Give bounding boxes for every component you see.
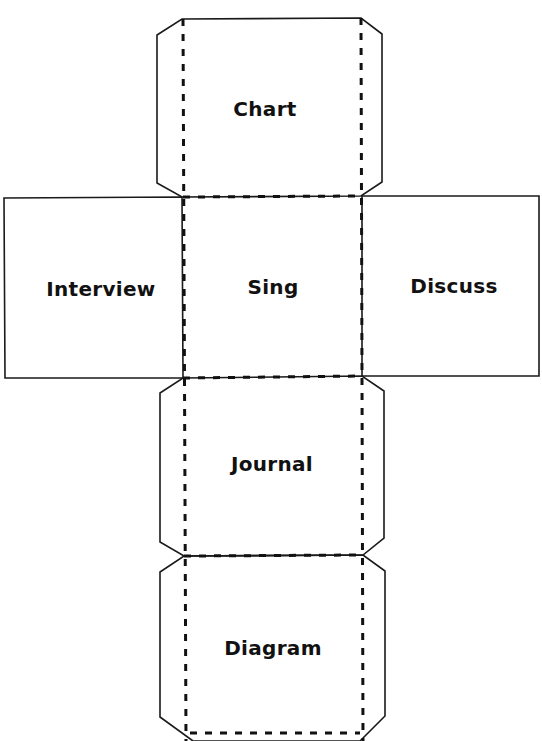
face-label-lower: Journal xyxy=(231,452,313,476)
face-label-right: Discuss xyxy=(410,274,497,298)
die-net-diagram: Sample Die Net (cut off at top) Chart In… xyxy=(0,0,542,741)
face-label-bottom: Diagram xyxy=(224,636,322,660)
fold-line-left-vertical xyxy=(183,19,186,741)
fold-line-right-vertical xyxy=(361,18,363,741)
face-label-top: Chart xyxy=(233,97,296,121)
face-label-center: Sing xyxy=(247,275,298,299)
face-label-left: Interview xyxy=(46,277,155,301)
